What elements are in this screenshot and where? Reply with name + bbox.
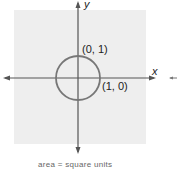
x-axis-left-arrow-icon (3, 76, 10, 81)
x-axis-label: x (152, 65, 158, 77)
caption: area = square units (38, 160, 112, 169)
axes-and-circle (0, 0, 179, 169)
y-axis-up-arrow-icon (76, 1, 81, 8)
unit-circle-diagram: y x (0, 1) (1, 0) area = square units (0, 0, 179, 169)
offscreen-arrow-icon (169, 77, 173, 80)
y-axis-label: y (84, 0, 90, 10)
y-axis-down-arrow-icon (76, 147, 81, 154)
point-label-0-1: (0, 1) (82, 43, 108, 55)
point-label-1-0: (1, 0) (102, 80, 128, 92)
